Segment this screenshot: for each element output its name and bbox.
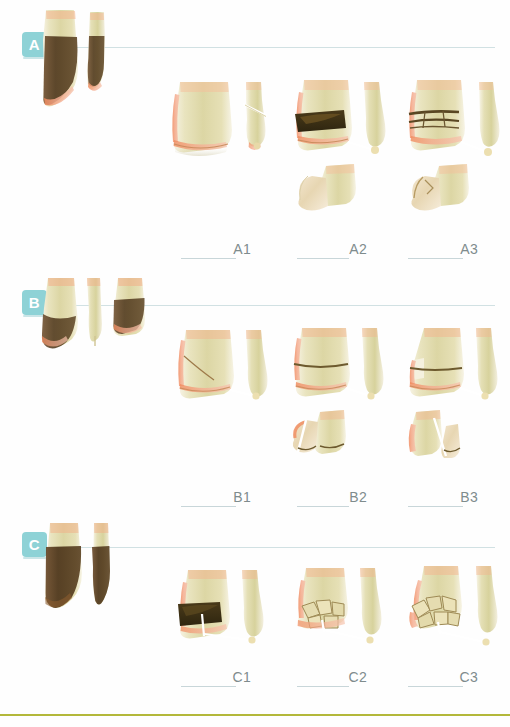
subtype-label-b2: B2 <box>312 489 367 505</box>
subtype-figure-c1 <box>170 570 276 660</box>
leader-line-c1 <box>181 686 236 687</box>
leader-line-a3 <box>408 258 463 259</box>
leader-line-b1 <box>181 506 236 507</box>
overview-figure-a <box>34 10 114 115</box>
figure-canvas: A <box>0 0 510 727</box>
subtype-figure-c3 <box>402 566 510 664</box>
subtype-figure-b2 <box>286 328 396 483</box>
leader-line-c2 <box>297 686 349 687</box>
subtype-figure-a2 <box>286 80 396 235</box>
leader-line-b2 <box>297 506 349 507</box>
subtype-label-c3: C3 <box>423 669 478 685</box>
subtype-figure-a3 <box>401 80 509 235</box>
leader-line-a2 <box>297 258 349 259</box>
subtype-figure-b3 <box>400 328 510 483</box>
leader-line-b3 <box>408 506 463 507</box>
overview-figure-c <box>32 523 122 618</box>
subtype-label-c2: C2 <box>312 669 367 685</box>
subtype-label-a2: A2 <box>312 241 367 257</box>
leader-line-a1 <box>181 258 236 259</box>
subtype-label-a1: A1 <box>196 241 251 257</box>
footer-accent-rule <box>0 714 510 716</box>
subtype-figure-b1 <box>170 330 276 430</box>
subtype-label-c1: C1 <box>196 669 251 685</box>
overview-figure-b <box>32 278 152 368</box>
subtype-label-b3: B3 <box>423 489 478 505</box>
subtype-label-b1: B1 <box>196 489 251 505</box>
group-rule-a <box>47 47 495 48</box>
subtype-figure-a1 <box>166 82 274 182</box>
subtype-figure-c2 <box>288 568 396 663</box>
leader-line-c3 <box>408 686 463 687</box>
subtype-label-a3: A3 <box>423 241 478 257</box>
